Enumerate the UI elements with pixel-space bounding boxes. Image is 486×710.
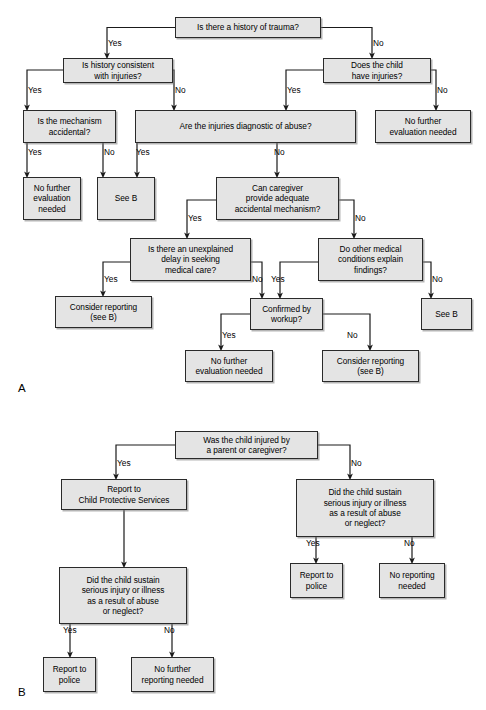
report-to-police-right: Report to police: [290, 563, 343, 598]
edge-label-no: No: [274, 148, 285, 157]
edge-label-no: No: [355, 214, 366, 223]
edge-label-yes: Yes: [136, 148, 150, 157]
edge-label-no: No: [437, 86, 448, 95]
edge-label-yes: Yes: [117, 459, 131, 468]
consider-reporting-right: Consider reporting (see B): [322, 350, 419, 382]
edge-label-no: No: [404, 539, 415, 548]
mechanism-accidental: Is the mechanism accidental?: [23, 110, 116, 143]
confirmed-by-workup: Confirmed by workup?: [250, 298, 323, 330]
edge-label-yes: Yes: [28, 86, 42, 95]
no-further-eval-left: No further evaluation needed: [23, 177, 81, 220]
edge-label-yes: Yes: [63, 626, 77, 635]
edge-label-no: No: [252, 275, 263, 284]
no-further-eval-bottom: No further evaluation needed: [185, 350, 273, 382]
edge-label-no: No: [175, 86, 186, 95]
did-child-sustain-left: Did the child sustain serious injury or …: [59, 567, 187, 624]
edge-label-yes: Yes: [306, 539, 320, 548]
edge-label-yes: Yes: [108, 39, 122, 48]
edge-label-yes: Yes: [104, 275, 118, 284]
edge-label-no: No: [373, 39, 384, 48]
edge-label-no: No: [164, 626, 175, 635]
history-consistent: Is history consistent with injuries?: [63, 58, 173, 83]
edge-label-yes: Yes: [222, 331, 236, 340]
caregiver-mechanism: Can caregiver provide adequate accidenta…: [216, 177, 339, 220]
edge-label-yes: Yes: [287, 86, 301, 95]
no-reporting-needed: No reporting needed: [379, 563, 445, 598]
edge-label-no: No: [347, 331, 358, 340]
no-further-eval-right: No further evaluation needed: [375, 110, 471, 143]
consider-reporting-left: Consider reporting (see B): [55, 296, 152, 328]
edge-label-yes: Yes: [271, 275, 285, 284]
panel-letter-b: B: [18, 686, 26, 698]
see-b-right: See B: [421, 298, 472, 330]
edge-label-no: No: [104, 148, 115, 157]
did-child-sustain-right: Did the child sustain serious injury or …: [296, 479, 434, 537]
injuries-diagnostic: Are the injuries diagnostic of abuse?: [135, 110, 356, 143]
other-medical-conditions: Do other medical conditions explain find…: [318, 238, 423, 281]
report-to-police-left: Report to police: [43, 657, 96, 692]
child-injured-by-parent: Was the child injured by a parent or car…: [175, 431, 318, 459]
edge-label-yes: Yes: [28, 148, 42, 157]
unexplained-delay: Is there an unexplained delay in seeking…: [130, 238, 251, 281]
edge-label-no: No: [432, 275, 443, 284]
edge-label-no: No: [351, 459, 362, 468]
edge-label-yes: Yes: [188, 214, 202, 223]
child-have-injuries: Does the child have injuries?: [323, 58, 431, 83]
history-of-trauma: Is there a history of trauma?: [175, 17, 321, 38]
panel-letter-a: A: [18, 382, 26, 394]
report-to-cps: Report to Child Protective Services: [61, 479, 187, 510]
see-b-left: See B: [97, 177, 155, 220]
no-further-reporting: No further reporting needed: [131, 657, 214, 692]
